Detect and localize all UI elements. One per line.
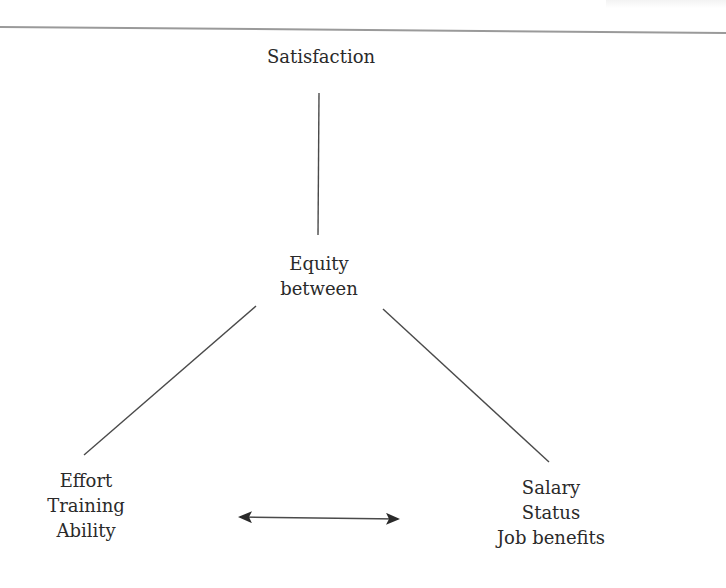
node-outcomes-status: Status [471,500,631,525]
edge-satisfaction-equity [318,93,319,235]
node-satisfaction: Satisfaction [221,44,421,69]
node-outcomes-salary: Salary [471,475,631,500]
node-outcomes-job-benefits: Job benefits [471,525,631,550]
node-inputs-ability: Ability [6,518,166,543]
node-equity: Equity between [219,251,419,301]
node-satisfaction-label: Satisfaction [221,44,421,69]
edge-equity-outcomes [383,309,549,462]
node-inputs: Effort Training Ability [6,468,166,543]
header-rule [0,27,726,33]
node-inputs-training: Training [6,493,166,518]
node-equity-line-2: between [219,276,419,301]
node-outcomes: Salary Status Job benefits [471,475,631,550]
node-inputs-effort: Effort [6,468,166,493]
edge-equity-inputs [84,306,256,455]
diagram-page: Satisfaction Equity between Effort Train… [0,0,726,588]
double-arrow [240,517,398,519]
node-equity-line-1: Equity [219,251,419,276]
